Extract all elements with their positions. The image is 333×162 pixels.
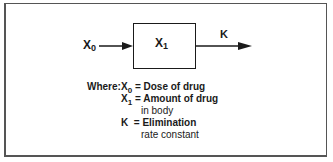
compartment-label: X1 [155, 36, 168, 51]
legend-where: Where: [87, 81, 121, 93]
legend-row-elimination: K = Elimination [121, 117, 196, 129]
legend-row-amount-cont: in body [141, 105, 173, 117]
input-label: X0 [83, 38, 96, 53]
rate-constant-label: K [220, 28, 228, 40]
output-arrowhead-icon [238, 42, 252, 50]
input-arrowhead-icon [122, 42, 133, 50]
legend-row-elimination-cont: rate constant [141, 129, 199, 141]
